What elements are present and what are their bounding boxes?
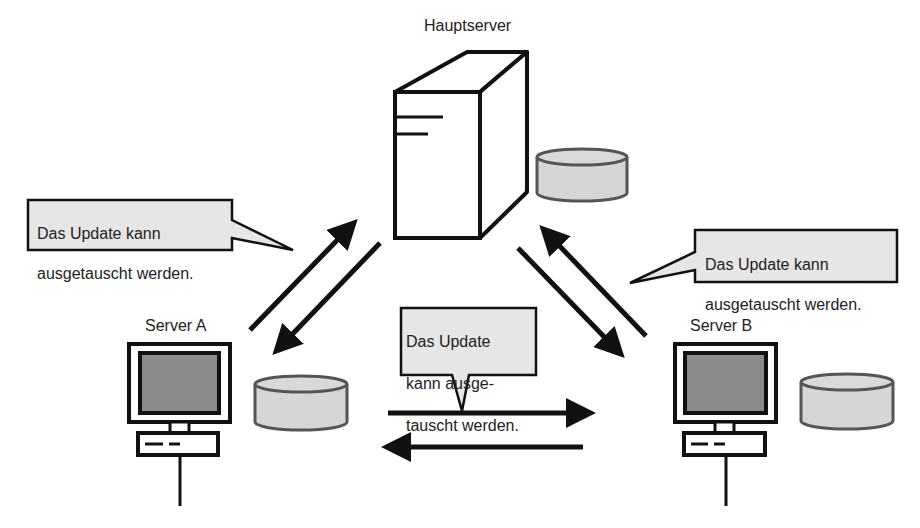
callout-center-text: Das Update kann ausge- tauscht werden. [406, 310, 519, 457]
main-server-label: Hauptserver [424, 17, 511, 35]
server-a-database-icon [255, 376, 347, 430]
main-server-database-icon [537, 149, 627, 201]
callout-left-line-1: Das Update kann [37, 224, 194, 244]
server-a-label: Server A [145, 317, 206, 335]
callout-right-line-1: Das Update kann [705, 255, 862, 275]
callout-center-line-3: tauscht werden. [406, 415, 519, 436]
server-a-computer-icon [129, 344, 230, 506]
arrow-server-b-to-main [549, 235, 646, 336]
main-server-tower-icon [395, 52, 527, 238]
callout-left-text: Das Update kann ausgetauscht werden. [37, 204, 194, 304]
callout-right-text: Das Update kann ausgetauscht werden. [705, 235, 862, 335]
callout-right-line-2: ausgetauscht werden. [705, 295, 862, 315]
server-b-database-icon [801, 374, 893, 429]
callout-center-line-2: kann ausge- [406, 373, 519, 394]
server-b-computer-icon [675, 344, 776, 506]
callout-center-line-1: Das Update [406, 331, 519, 352]
arrow-main-to-server-a [282, 243, 380, 345]
callout-left-line-2: ausgetauscht werden. [37, 264, 194, 284]
